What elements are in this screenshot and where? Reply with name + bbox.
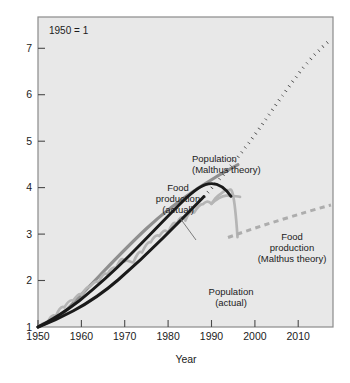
x-tick-label-1980: 1980 [156, 330, 180, 342]
x-tick-label-1970: 1970 [113, 330, 137, 342]
x-axis-title: Year [175, 353, 197, 365]
x-tick-label-1960: 1960 [70, 330, 94, 342]
population-food-production-chart: 1 2 3 4 5 6 7 1950 1960 1970 1980 1990 2… [0, 0, 350, 383]
annotation-population-malthus-line2: (Malthus theory) [192, 164, 261, 175]
annotation-food-production-actual-line2: production [156, 193, 200, 204]
x-tick-label-2000: 2000 [243, 330, 267, 342]
x-tick-label-1990: 1990 [200, 330, 224, 342]
x-tick-label-1950: 1950 [26, 330, 50, 342]
y-tick-label-6: 6 [26, 88, 32, 100]
annotation-population-actual-line1: Population [209, 286, 254, 297]
plot-area-background [38, 17, 333, 327]
y-tick-label-5: 5 [26, 135, 32, 147]
y-tick-label-2: 2 [26, 274, 32, 286]
y-tick-label-7: 7 [26, 42, 32, 54]
annotation-food-production-actual-line3: (actual) [162, 204, 194, 215]
annotation-food-production-malthus-line1: Food [281, 231, 303, 242]
annotation-population-actual: Population (actual) [209, 286, 254, 308]
annotation-population-malthus-line1: Population [192, 153, 237, 164]
annotation-population-actual-line2: (actual) [215, 297, 247, 308]
annotation-food-production-malthus-line3: (Malthus theory) [258, 253, 327, 264]
annotation-food-production-malthus-line2: production [270, 242, 314, 253]
annotation-food-production-actual-line1: Food [167, 182, 189, 193]
y-tick-label-3: 3 [26, 228, 32, 240]
y-tick-label-4: 4 [26, 181, 32, 193]
normalization-note: 1950 = 1 [49, 25, 89, 36]
chart-figure: 1 2 3 4 5 6 7 1950 1960 1970 1980 1990 2… [0, 0, 350, 383]
x-tick-label-2010: 2010 [287, 330, 311, 342]
